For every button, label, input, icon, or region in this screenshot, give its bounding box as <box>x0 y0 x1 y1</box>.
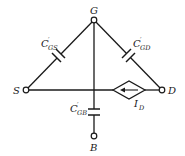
body-label: B <box>89 142 97 153</box>
cgb-label: C ′ GB <box>70 101 87 117</box>
circuit-diagram: G S D B C ′ GS C ′ GD C ′ GB I D <box>0 0 185 156</box>
drain-label: D <box>167 85 176 96</box>
gate-terminal <box>91 17 97 23</box>
body-terminal <box>91 133 97 139</box>
svg-text:′: ′ <box>77 101 79 109</box>
source-label: S <box>13 85 20 96</box>
gate-label: G <box>90 5 98 16</box>
svg-text:′: ′ <box>48 36 50 44</box>
drain-terminal <box>159 87 165 93</box>
svg-text:GD: GD <box>140 44 151 52</box>
id-label: I D <box>133 98 145 112</box>
capacitor-cgb <box>88 109 100 115</box>
svg-text:GB: GB <box>77 109 87 117</box>
svg-text:GS: GS <box>48 44 58 52</box>
current-source-diamond <box>113 81 145 99</box>
svg-text:′: ′ <box>140 36 142 44</box>
svg-text:D: D <box>138 104 145 112</box>
source-terminal <box>23 87 29 93</box>
cgd-label: C ′ GD <box>133 36 151 52</box>
cgs-label: C ′ GS <box>41 36 58 52</box>
